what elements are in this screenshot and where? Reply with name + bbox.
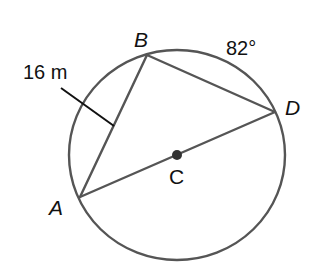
- arc-measure-bd: 82°: [226, 38, 256, 58]
- circle-diagram: [0, 0, 327, 265]
- point-label-d: D: [285, 97, 300, 118]
- length-leader-line: [61, 88, 114, 126]
- point-label-a: A: [49, 197, 63, 218]
- center-point-c: [172, 150, 182, 160]
- point-label-c: C: [169, 166, 184, 187]
- length-label-ab: 16 m: [23, 62, 67, 82]
- point-label-b: B: [134, 29, 148, 50]
